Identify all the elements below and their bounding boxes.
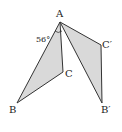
label-c: C — [65, 68, 73, 79]
geometry-diagram: A B C C′ B′ 56° — [0, 0, 122, 132]
label-a: A — [55, 8, 64, 19]
angle-label: 56° — [36, 35, 50, 44]
label-c-prime: C′ — [102, 39, 113, 50]
label-b: B — [9, 104, 16, 115]
triangle-ab-prime-c-prime — [60, 22, 102, 103]
label-b-prime: B′ — [101, 104, 111, 115]
